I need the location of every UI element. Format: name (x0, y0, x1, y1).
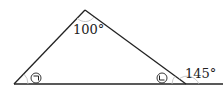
triangle-diagram: 100° 145° (0, 0, 223, 90)
exterior-angle-label: 145° (185, 66, 216, 81)
apex-angle-arc (77, 17, 94, 22)
left-angle-arc (24, 74, 28, 84)
right-interior-angle-arc (172, 76, 175, 84)
left-angle-marker (31, 73, 41, 83)
apex-angle-label: 100° (73, 22, 104, 37)
right-angle-marker (157, 73, 167, 83)
